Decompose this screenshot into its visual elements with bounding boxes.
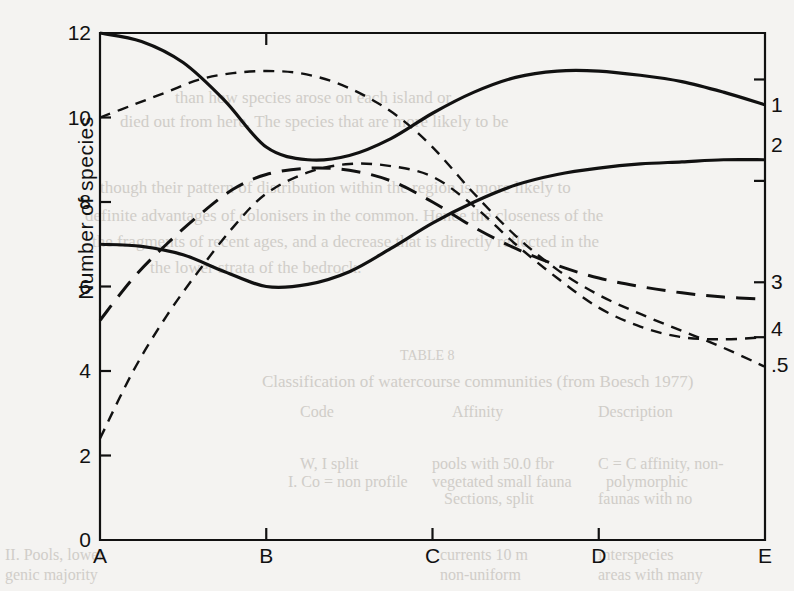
x-axis-tick-label: A [85,544,115,568]
species-line-chart: Number of species 024681012 ABCDE 1234.5 [0,0,794,591]
y-axis-tick-label: 10 [57,106,91,130]
series-curve-1 [100,33,765,160]
series-curve-5 [100,71,765,367]
x-axis-tick-label: C [418,544,448,568]
chart-svg [0,0,794,591]
x-axis-tick-label: B [251,544,281,568]
y-axis-tick-label: 2 [57,444,91,468]
series-curve-4 [100,164,765,439]
series-label-2: 2 [771,133,783,157]
series-label-4: 4 [771,317,783,341]
series-label-1: 1 [771,93,783,117]
x-axis-tick-label: D [584,544,614,568]
series-label-3: 3 [771,270,783,294]
y-axis-tick-label: 6 [57,275,91,299]
figure-page: than how species arose on each island or… [0,0,794,591]
y-axis-tick-label: 8 [57,190,91,214]
series-label-5: .5 [771,353,789,377]
y-axis-tick-label: 4 [57,359,91,383]
axis-frame [100,33,765,540]
y-axis-tick-label: 12 [57,21,91,45]
series-curve-3 [100,168,765,320]
x-axis-tick-label: E [750,544,780,568]
